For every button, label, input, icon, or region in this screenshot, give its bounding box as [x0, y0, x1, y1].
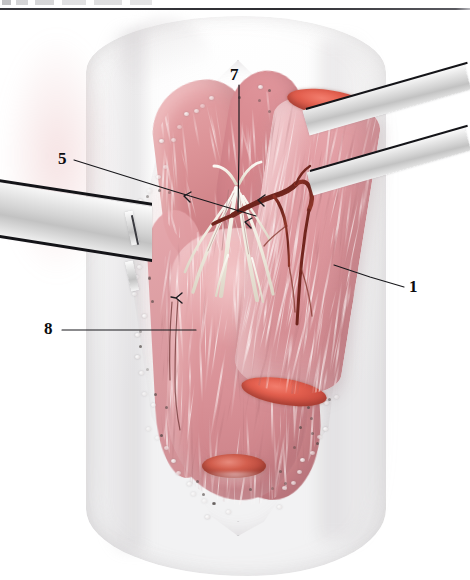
retractor-left-tip-lower	[125, 260, 139, 291]
nerve-branches	[185, 162, 273, 302]
label-1: 1	[409, 278, 418, 295]
retractor-right[interactable]	[300, 80, 470, 205]
label-8: 8	[44, 320, 53, 337]
leader-1	[334, 265, 404, 287]
retractor-right-blade-lower	[307, 127, 470, 195]
label-7: 7	[230, 66, 239, 83]
leader-7	[238, 85, 239, 212]
anatomical-figure: 7 5 1 8	[0, 0, 470, 580]
retractor-left[interactable]	[0, 185, 170, 290]
label-5: 5	[58, 150, 67, 167]
intermuscular-septum-line	[170, 300, 180, 430]
